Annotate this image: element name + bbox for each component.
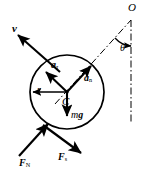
normal-force-vector-arrow (19, 124, 48, 156)
tangential-acceleration-subscript: τ (56, 63, 59, 70)
normal-force-label: FN (19, 158, 30, 169)
diagram-canvas (0, 0, 149, 179)
radius-label: r (37, 85, 41, 95)
friction-force-symbol: F (58, 151, 65, 162)
normal-acceleration-label: an (84, 73, 92, 84)
friction-force-subscript: s (65, 155, 68, 162)
pivot-point-label: O (128, 2, 136, 13)
velocity-label: v (12, 23, 17, 34)
tangential-acceleration-vector-arrow (46, 72, 67, 92)
friction-force-label: Fs (58, 152, 67, 163)
center-point-label: C (62, 96, 69, 107)
angle-label: θ (120, 43, 125, 53)
normal-force-symbol: F (19, 157, 26, 168)
normal-force-subscript: N (26, 161, 31, 168)
physics-diagram: v O θ aτ an r C mg FN Fs (0, 0, 149, 179)
center-point-dot (65, 90, 68, 93)
tangential-acceleration-label: aτ (51, 60, 59, 71)
normal-acceleration-subscript: n (89, 76, 92, 83)
weight-gravity-symbol: g (78, 109, 83, 120)
weight-label: mg (71, 110, 83, 120)
